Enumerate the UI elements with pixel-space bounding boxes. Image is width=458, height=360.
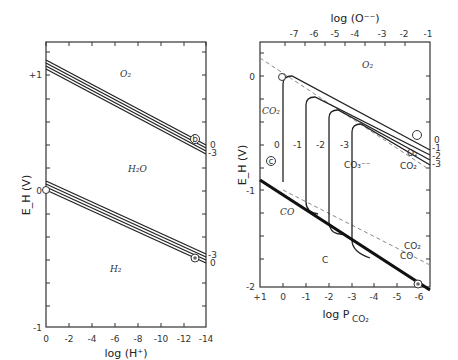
right-y-tick-0: 0 xyxy=(249,72,255,82)
svg-text:0: 0 xyxy=(43,334,49,344)
svg-text:-6: -6 xyxy=(415,292,424,302)
svg-text:-4: -4 xyxy=(88,334,97,344)
region-o2-label: O₂ xyxy=(120,69,131,79)
y-tick-0: 0 xyxy=(36,186,42,196)
point-a-dot xyxy=(193,256,197,260)
left-x-tick-labels: 0 -2 -4 -6 -8 -10 -12 -14 xyxy=(43,334,213,344)
svg-text:-10: -10 xyxy=(154,334,169,344)
svg-text:-7: -7 xyxy=(290,29,299,39)
svg-text:-3: -3 xyxy=(378,29,387,39)
svg-text:-1: -1 xyxy=(424,29,433,39)
svg-text:-2: -2 xyxy=(325,292,334,302)
svg-text:-8: -8 xyxy=(134,334,143,344)
svg-text:+1: +1 xyxy=(253,292,266,302)
right-y-axis-title: E_H (V) xyxy=(236,145,249,185)
y-tick-minus1: -1 xyxy=(33,323,42,333)
left-x-axis-title: log (H⁺) xyxy=(105,347,148,360)
right-x-axis-title: log P xyxy=(323,308,350,321)
svg-text:-12: -12 xyxy=(177,334,192,344)
svg-text:-1: -1 xyxy=(302,292,311,302)
left-plot-frame xyxy=(46,42,206,327)
left-panel: b O₂ H₂O H₂ 0 -3 -3 0 +1 0 -1 0 -2 -4 -6… xyxy=(20,42,217,360)
region-co2-label: CO₂ xyxy=(262,106,280,116)
lower-label-0: 0 xyxy=(210,258,216,268)
right-top-axis-title: log (O⁻⁻) xyxy=(330,12,379,25)
point-b-label: b xyxy=(192,134,198,144)
co2-lower-label: CO₂ xyxy=(404,241,421,251)
o2-line-label: O₂ xyxy=(407,148,418,158)
right-panel: c O₂ CO₂ CO₃⁻⁻ CO C 0 -1 -2 -3 0 -1 -2 -… xyxy=(236,12,441,324)
vertical-label-1: -1 xyxy=(293,140,302,150)
region-o2-label-right: O₂ xyxy=(362,60,373,70)
right-label-3: -3 xyxy=(432,159,441,169)
svg-text:-5: -5 xyxy=(331,29,340,39)
svg-text:-2: -2 xyxy=(400,29,409,39)
y-tick-plus1: +1 xyxy=(29,70,42,80)
svg-text:-2: -2 xyxy=(65,334,74,344)
carbon-boundary-line xyxy=(260,180,430,290)
h2o-h2-lines xyxy=(46,181,206,263)
left-y-axis-title: E_H (V) xyxy=(20,175,33,215)
point-b-circle-right xyxy=(413,131,422,140)
vertical-label-0: 0 xyxy=(274,140,280,150)
svg-text:0: 0 xyxy=(280,292,286,302)
right-y-tick-minus2: -2 xyxy=(246,282,255,292)
svg-text:-14: -14 xyxy=(199,334,214,344)
left-top-ticks xyxy=(46,42,206,327)
point-c-label: c xyxy=(269,156,274,166)
point-a-dot-right xyxy=(416,282,420,286)
svg-text:-3: -3 xyxy=(348,292,357,302)
vertical-label-2: -2 xyxy=(316,140,325,150)
svg-text:-4: -4 xyxy=(370,292,379,302)
right-x-tick-labels: +1 0 -1 -2 -3 -4 -5 -6 xyxy=(253,292,423,302)
origin-circle xyxy=(43,187,50,194)
diagram-canvas: b O₂ H₂O H₂ 0 -3 -3 0 +1 0 -1 0 -2 -4 -6… xyxy=(0,0,458,360)
region-co3-label: CO₃⁻⁻ xyxy=(344,160,371,170)
co2-line-label: CO₂ xyxy=(400,161,417,171)
right-x-axis-subscript: CO₂ xyxy=(352,314,369,324)
svg-text:-4: -4 xyxy=(351,29,360,39)
svg-text:-6: -6 xyxy=(310,29,319,39)
o2-boundary-curves xyxy=(283,76,430,240)
region-c-label: C xyxy=(322,255,328,265)
region-co-label: CO xyxy=(280,207,295,217)
vertical-label-3: -3 xyxy=(340,140,349,150)
region-h2-label: H₂ xyxy=(109,264,122,274)
svg-text:-6: -6 xyxy=(111,334,120,344)
region-h2o-label: H₂O xyxy=(127,164,147,174)
right-y-tick-minus1: -1 xyxy=(246,186,255,196)
svg-text:-5: -5 xyxy=(393,292,402,302)
right-top-tick-labels: -7 -6 -5 -4 -3 -2 -1 xyxy=(290,29,433,39)
upper-label-3: -3 xyxy=(208,148,217,158)
co-lower-label: CO xyxy=(400,251,413,261)
origin-circle-right xyxy=(279,74,286,81)
